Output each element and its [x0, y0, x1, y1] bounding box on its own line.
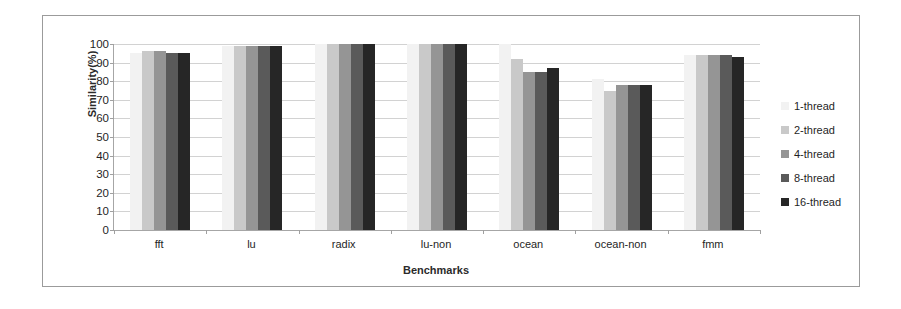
bar-ocean-non-8-thread[interactable]	[628, 85, 640, 230]
bar-group-fft	[114, 44, 206, 230]
bar-fmm-2-thread[interactable]	[696, 55, 708, 230]
x-axis-category-labels: fftluradixlu-nonoceanocean-nonfmm	[113, 238, 759, 250]
bar-fft-1-thread[interactable]	[130, 53, 142, 230]
y-axis-tick-label: 50	[79, 132, 109, 142]
bar-lu-non-4-thread[interactable]	[431, 44, 443, 230]
bar-ocean-non-1-thread[interactable]	[592, 79, 604, 230]
x-axis-label-ocean: ocean	[482, 238, 574, 250]
y-axis-tick-labels: 1009080706050403020100	[79, 44, 109, 230]
legend-item-8-thread[interactable]: 8-thread	[781, 166, 901, 190]
legend-swatch-icon	[781, 150, 789, 158]
legend-label: 1-thread	[794, 100, 835, 112]
bar-lu-non-2-thread[interactable]	[419, 44, 431, 230]
bar-radix-2-thread[interactable]	[327, 44, 339, 230]
x-axis-tick-mark	[391, 230, 392, 234]
bar-ocean-non-16-thread[interactable]	[640, 85, 652, 230]
legend-item-1-thread[interactable]: 1-thread	[781, 94, 901, 118]
bar-lu-2-thread[interactable]	[234, 46, 246, 230]
bar-fft-2-thread[interactable]	[142, 51, 154, 230]
bar-radix-8-thread[interactable]	[351, 44, 363, 230]
bar-fft-16-thread[interactable]	[178, 53, 190, 230]
legend-item-16-thread[interactable]: 16-thread	[781, 190, 901, 214]
y-axis-tick-label: 0	[79, 225, 109, 235]
legend-swatch-icon	[781, 174, 789, 182]
x-axis-label-ocean-non: ocean-non	[574, 238, 666, 250]
y-axis-tick-label: 60	[79, 113, 109, 123]
bar-ocean-non-4-thread[interactable]	[616, 85, 628, 230]
bar-ocean-8-thread[interactable]	[535, 72, 547, 230]
bar-lu-non-8-thread[interactable]	[443, 44, 455, 230]
x-axis-tick-mark	[668, 230, 669, 234]
x-axis-tick-mark	[206, 230, 207, 234]
chart-frame: Similarity(%) 1009080706050403020100 fft…	[42, 15, 860, 287]
bar-fmm-8-thread[interactable]	[720, 55, 732, 230]
bar-ocean-2-thread[interactable]	[511, 59, 523, 230]
chart-plot-wrapper: Similarity(%) 1009080706050403020100 fft…	[43, 16, 861, 288]
bar-group-lu	[206, 44, 298, 230]
bar-radix-4-thread[interactable]	[339, 44, 351, 230]
bar-lu-8-thread[interactable]	[258, 46, 270, 230]
bar-lu-1-thread[interactable]	[222, 46, 234, 230]
bar-ocean-4-thread[interactable]	[523, 72, 535, 230]
y-axis-tick-label: 10	[79, 206, 109, 216]
legend-swatch-icon	[781, 126, 789, 134]
bar-ocean-non-2-thread[interactable]	[604, 91, 616, 231]
x-axis-tick-mark	[575, 230, 576, 234]
y-axis-tick-label: 40	[79, 151, 109, 161]
bar-group-lu-non	[391, 44, 483, 230]
legend-label: 16-thread	[794, 196, 841, 208]
x-axis-label-lu: lu	[205, 238, 297, 250]
x-axis-tick-mark	[114, 230, 115, 234]
y-axis-tick-label: 80	[79, 76, 109, 86]
bar-group-ocean-non	[575, 44, 667, 230]
x-axis-label-fmm: fmm	[667, 238, 759, 250]
y-axis-tick-label: 100	[79, 39, 109, 49]
x-axis-label-fft: fft	[113, 238, 205, 250]
bar-lu-non-16-thread[interactable]	[455, 44, 467, 230]
y-axis-tick-label: 70	[79, 95, 109, 105]
bar-fmm-4-thread[interactable]	[708, 55, 720, 230]
bar-fmm-16-thread[interactable]	[732, 57, 744, 230]
bar-radix-1-thread[interactable]	[315, 44, 327, 230]
bar-groups	[114, 44, 760, 230]
legend-swatch-icon	[781, 198, 789, 206]
legend-swatch-icon	[781, 102, 789, 110]
x-axis-tick-mark	[760, 230, 761, 234]
y-axis-tick-label: 90	[79, 58, 109, 68]
bar-radix-16-thread[interactable]	[363, 44, 375, 230]
legend-label: 2-thread	[794, 124, 835, 136]
bar-fmm-1-thread[interactable]	[684, 55, 696, 230]
legend-label: 4-thread	[794, 148, 835, 160]
bar-group-ocean	[483, 44, 575, 230]
chart-legend: 1-thread2-thread4-thread8-thread16-threa…	[781, 94, 901, 214]
y-axis-tick-label: 20	[79, 188, 109, 198]
bar-fft-4-thread[interactable]	[154, 51, 166, 230]
x-axis-tick-mark	[299, 230, 300, 234]
legend-label: 8-thread	[794, 172, 835, 184]
bar-lu-non-1-thread[interactable]	[407, 44, 419, 230]
bar-lu-16-thread[interactable]	[270, 46, 282, 230]
x-axis-title: Benchmarks	[113, 264, 759, 276]
bar-ocean-16-thread[interactable]	[547, 68, 559, 230]
legend-item-4-thread[interactable]: 4-thread	[781, 142, 901, 166]
bar-fft-8-thread[interactable]	[166, 53, 178, 230]
x-axis-tick-mark	[483, 230, 484, 234]
x-axis-label-radix: radix	[298, 238, 390, 250]
bar-ocean-1-thread[interactable]	[499, 44, 511, 230]
legend-item-2-thread[interactable]: 2-thread	[781, 118, 901, 142]
bar-group-fmm	[668, 44, 760, 230]
bar-lu-4-thread[interactable]	[246, 46, 258, 230]
y-axis-tick-label: 30	[79, 169, 109, 179]
x-axis-label-lu-non: lu-non	[390, 238, 482, 250]
bar-group-radix	[299, 44, 391, 230]
plot-area	[113, 44, 760, 231]
